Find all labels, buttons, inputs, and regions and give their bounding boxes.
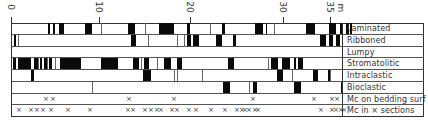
occurrence-bar [306,23,315,34]
bed-divider [18,35,19,46]
cross-marker-icon: × [186,106,192,115]
row-label-intraclastic: Intraclastic [342,70,424,82]
occurrence-bar [223,82,230,93]
occurrence-bar [133,58,139,69]
occurrence-bar [222,23,225,34]
facies-row-bioclastic [11,82,342,94]
cross-marker-icon: × [246,106,252,115]
occurrence-bar [59,23,64,34]
cross-marker-icon: × [208,106,214,115]
occurrence-bar [320,35,326,46]
cross-marker-icon: × [171,95,177,104]
occurrence-bar [216,35,222,46]
cross-marker-icon: × [334,95,340,104]
bed-divider [148,35,149,46]
occurrence-bar [31,70,34,81]
occurrence-bar [60,58,81,69]
bed-divider [145,23,146,34]
occurrence-bar [298,58,303,69]
occurrence-bar [44,58,47,69]
bed-divider [330,70,331,81]
cross-marker-icon: × [28,106,34,115]
cross-marker-icon: × [40,106,46,115]
bed-divider [55,58,56,69]
occurrence-bar [336,35,340,46]
cross-marker-icon: × [130,106,136,115]
cross-marker-icon: × [48,106,54,115]
occurrence-bar [329,23,336,34]
occurrence-bar [294,58,296,69]
occurrence-bar [228,58,234,69]
cross-marker-icon: × [250,95,256,104]
row-label-ribboned: Ribboned [342,35,424,47]
occurrence-bar [134,23,135,34]
occurrence-bar [328,70,330,81]
cross-marker-icon: × [50,95,56,104]
occurrence-bar [233,35,236,46]
cross-marker-icon: × [16,106,22,115]
cross-marker-icon: × [65,106,71,115]
facies-row-intraclastic [11,70,342,82]
occurrence-bar [313,70,318,81]
bed-divider [92,82,93,93]
row-label-stromatolitic: Stromatolitic [342,58,424,70]
cross-marker-icon: × [142,106,148,115]
bed-divider [174,70,175,81]
occurrence-bar [40,58,42,69]
occurrence-bar [277,70,283,81]
bed-divider [202,70,203,81]
occurrence-bar [164,58,171,69]
bed-divider [210,23,211,34]
bed-divider [292,70,293,81]
facies-row-mc-on-bedding-surf: ×××××××× [11,94,342,106]
cross-marker-icon: × [311,95,317,104]
occurrence-bar [49,58,52,69]
tick-label-20: 20 [185,0,195,15]
facies-log-diagram: 0 10 20 30 35 m ××××××××××××××××××××××××… [0,0,428,123]
facies-row-mc-in-sections: ×××××××××××××××××××××××××××××× [11,105,342,117]
occurrence-bar [193,35,199,46]
cross-marker-icon: × [318,106,324,115]
cross-marker-icon: × [255,106,261,115]
occurrence-bar [329,35,333,46]
tick-label-35: 35 [325,0,335,15]
bed-divider [38,58,39,69]
facies-row-stromatolitic [11,58,342,70]
cross-marker-icon: × [174,106,180,115]
occurrence-bar [53,23,55,34]
occurrence-bar [187,35,191,46]
occurrence-bar [13,58,16,69]
row-label-mc-sections: Mc in × sections [342,105,424,117]
axis-unit-label: m [336,4,346,13]
cross-marker-icon: × [87,106,93,115]
facies-row-lumpy [11,47,342,59]
facies-row-laminated [11,23,342,35]
occurrence-bar [294,82,301,93]
cross-marker-icon: × [148,106,154,115]
occurrence-bar [253,82,257,93]
occurrence-bar [274,58,278,69]
bed-divider [177,70,178,81]
occurrence-bar [131,35,136,46]
bed-divider [177,35,178,46]
tick-label-0: 0 [6,0,16,15]
cross-marker-icon: × [126,95,132,104]
cross-marker-icon: × [158,106,164,115]
bed-divider [274,23,275,34]
occurrence-bar [34,58,38,69]
bed-divider [268,58,269,69]
occurrence-bar [14,35,16,46]
occurrence-bar [255,23,263,34]
occurrence-bar [288,58,290,69]
row-label-mc-bedding: Mc on bedding surf [342,94,424,106]
occurrence-bar [159,23,174,34]
row-label-lumpy: Lumpy [342,47,424,59]
bed-divider [184,35,185,46]
cross-marker-icon: × [193,106,199,115]
bed-divider [141,58,142,69]
tick-label-10: 10 [94,0,104,15]
occurrence-bar [18,58,31,69]
occurrence-bar [187,23,190,34]
occurrence-bar [144,58,149,69]
cross-marker-icon: × [43,95,49,104]
